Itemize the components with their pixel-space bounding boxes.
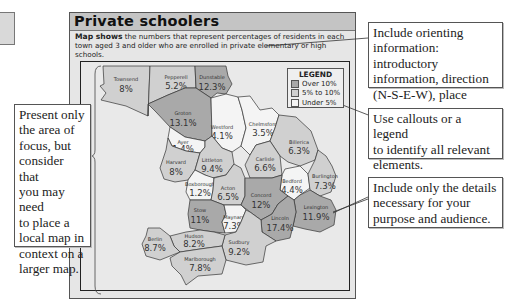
svg-text:11%: 11% [191, 215, 210, 225]
town-lexington: Lexington 11.9% [293, 190, 336, 232]
svg-text:Concord: Concord [251, 192, 272, 198]
legend-label: Over 10% [302, 80, 337, 88]
leader-line-details-b [333, 199, 368, 212]
svg-text:Stow: Stow [194, 207, 206, 213]
svg-text:11.9%: 11.9% [302, 212, 329, 222]
legend-swatch-light [291, 99, 299, 107]
svg-text:Bedford: Bedford [282, 178, 302, 184]
svg-text:Groton: Groton [174, 110, 191, 116]
svg-text:7.8%: 7.8% [189, 263, 211, 273]
legend-swatch-mid [291, 89, 299, 97]
svg-text:Billerica: Billerica [289, 139, 309, 145]
svg-text:Boxborough: Boxborough [185, 181, 215, 188]
svg-text:Chelmsford: Chelmsford [249, 121, 278, 127]
callout-orienting-info: Include orienting information: introduct… [368, 22, 503, 88]
callout-legend-tip: Use callouts or a legend to identify all… [368, 108, 503, 159]
svg-text:Marlborough: Marlborough [184, 256, 216, 263]
svg-text:9.4%: 9.4% [201, 164, 223, 174]
svg-text:12.3%: 12.3% [198, 82, 225, 92]
svg-text:8%: 8% [119, 84, 133, 94]
svg-text:Burlington: Burlington [312, 173, 338, 180]
svg-text:Harvard: Harvard [166, 159, 186, 165]
svg-text:Sudbury: Sudbury [229, 239, 250, 246]
svg-text:6.6%: 6.6% [254, 163, 276, 173]
svg-text:Carlisle: Carlisle [256, 156, 274, 162]
legend-item-under-5: Under 5% [288, 98, 343, 108]
svg-text:7.3%: 7.3% [314, 181, 336, 191]
svg-text:Lexington: Lexington [304, 204, 329, 211]
svg-text:12%: 12% [252, 200, 271, 210]
svg-text:Lincoln: Lincoln [271, 215, 289, 221]
svg-text:9.2%: 9.2% [228, 247, 250, 257]
callout-details-tip: Include only the details necessary for y… [368, 177, 503, 228]
map-legend: LEGEND Over 10% 5% to 10% Under 5% [287, 68, 344, 108]
legend-label: 5% to 10% [302, 89, 340, 97]
leader-line-orienting [266, 38, 368, 46]
svg-text:8.2%: 8.2% [183, 239, 205, 249]
svg-text:13.1%: 13.1% [169, 118, 196, 128]
svg-text:1.2%: 1.2% [189, 188, 211, 198]
legend-label: Under 5% [302, 99, 337, 107]
leader-line-details-a [333, 197, 368, 213]
svg-text:Dunstable: Dunstable [199, 74, 224, 80]
legend-swatch-dark [291, 80, 299, 88]
svg-text:6.5%: 6.5% [217, 192, 239, 202]
svg-text:Pepperell: Pepperell [164, 74, 187, 81]
town-stow: Stow 11% [188, 200, 226, 233]
svg-text:6.3%: 6.3% [288, 146, 310, 156]
svg-text:Acton: Acton [221, 185, 235, 191]
svg-text:8.7%: 8.7% [144, 243, 166, 253]
svg-text:Berlin: Berlin [148, 236, 163, 242]
svg-text:Westford: Westford [211, 124, 233, 130]
legend-item-5-to-10: 5% to 10% [288, 89, 343, 99]
svg-text:Littleton: Littleton [202, 157, 223, 163]
legend-title: LEGEND [288, 70, 343, 79]
svg-text:17.4%: 17.4% [266, 223, 293, 233]
svg-text:8%: 8% [169, 167, 183, 177]
town-townsend: Townsend 8% [100, 66, 150, 116]
callout-area-of-focus: Present only the area of focus, but cons… [14, 104, 91, 247]
brace-icon [91, 66, 101, 294]
svg-text:Townsend: Townsend [113, 76, 139, 82]
svg-text:3.5%: 3.5% [252, 128, 274, 138]
legend-item-over-10: Over 10% [288, 79, 343, 89]
